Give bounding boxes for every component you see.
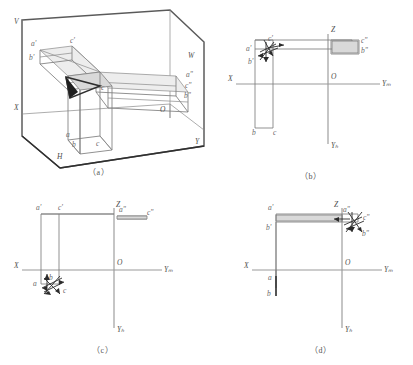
panel-a: V W X O H Y a' c' b' a" c" b" a b c c （a… [0, 0, 215, 185]
label-axis-yw-b: Yₘ [382, 80, 391, 88]
label-plane-v: V [14, 18, 19, 26]
axes-c [22, 208, 162, 328]
panel-c: Z X O Yₘ Yₕ a' c' a" c" a b c （c） [14, 192, 209, 362]
caption-b: （b） [300, 170, 322, 181]
label-b-prime-d: b' [266, 224, 271, 232]
panel-b: Z X O Yₘ Yₕ a' b' c' c" b" b c （b） [228, 12, 413, 187]
label-axis-x-b: X [228, 75, 233, 83]
label-origin-o: O [160, 106, 165, 114]
label-c-dprime-b: c" [361, 37, 367, 45]
label-axis-yh-d: Yₕ [345, 326, 352, 334]
label-c-top-a: c [96, 140, 99, 148]
label-a-prime-a: a' [31, 40, 36, 48]
panel-d: Z X O Yₘ Yₕ a' b' a" c" b" a b （d） [232, 192, 413, 362]
side-view-b [331, 40, 359, 54]
label-origin-o-d: O [345, 259, 350, 267]
arrow-cluster-b [258, 40, 284, 62]
label-axis-yh-b: Yₕ [331, 142, 338, 150]
label-axis-x-d: X [244, 262, 249, 270]
label-axis-yw-d: Yₘ [384, 266, 393, 274]
label-a-dprime-c: a" [119, 206, 126, 214]
label-axis-x: X [14, 104, 19, 112]
side-view-c [117, 216, 147, 219]
label-axis-x-c: X [14, 262, 19, 270]
caption-a: （a） [88, 166, 109, 177]
label-plane-w: W [188, 52, 194, 60]
label-a-top-c: a [33, 280, 37, 288]
panel-a-graphics [0, 0, 215, 175]
caption-c: （c） [92, 344, 113, 355]
label-axis-z-b: Z [331, 26, 335, 34]
label-b-top-a: b [72, 141, 76, 149]
label-b-top-d: b [267, 290, 271, 298]
label-a-prime-d: a' [268, 204, 273, 212]
label-c-top-b: c [273, 129, 276, 137]
label-c-top-c: c [63, 287, 66, 295]
label-c-prime-b: c' [268, 35, 273, 43]
panel-b-graphics [228, 12, 413, 177]
label-a-prime-c: a' [36, 204, 41, 212]
label-b-dprime-a: b" [184, 92, 191, 100]
label-origin-o-c: O [117, 259, 122, 267]
label-c-dprime-d: c" [363, 214, 369, 222]
label-axis-yh-c: Yₕ [117, 326, 124, 334]
label-a-dprime-d: a" [343, 206, 350, 214]
axes-d [252, 208, 382, 328]
label-c-prime-a: c' [70, 37, 75, 45]
caption-d: （d） [310, 344, 332, 355]
label-a-prime-b: a' [246, 45, 251, 53]
label-b-dprime-d: b" [362, 230, 369, 238]
label-a-top-d: a [268, 274, 272, 282]
label-c-inner-a: c [101, 84, 104, 92]
arrow-cluster-c [42, 274, 64, 295]
front-view-d [276, 214, 342, 288]
label-plane-h: H [57, 153, 62, 161]
label-b-dprime-b: b" [361, 47, 368, 55]
label-b-top-b: b [252, 129, 256, 137]
label-axis-z-d: Z [334, 201, 338, 209]
label-b-prime-a: b' [29, 54, 34, 62]
label-b-top-c: b [49, 274, 53, 282]
label-b-prime-b: b' [248, 58, 253, 66]
label-c-dprime-a: c" [185, 82, 191, 90]
label-c-prime-c: c' [58, 204, 63, 212]
label-a-dprime-a: a" [186, 71, 193, 79]
label-c-dprime-c: c" [147, 209, 153, 217]
label-axis-y: Y [195, 138, 199, 146]
label-origin-o-b: O [331, 73, 336, 81]
label-a-top-a: a [66, 131, 70, 139]
panel-c-graphics [14, 192, 209, 352]
label-axis-yw-c: Yₘ [164, 266, 173, 274]
